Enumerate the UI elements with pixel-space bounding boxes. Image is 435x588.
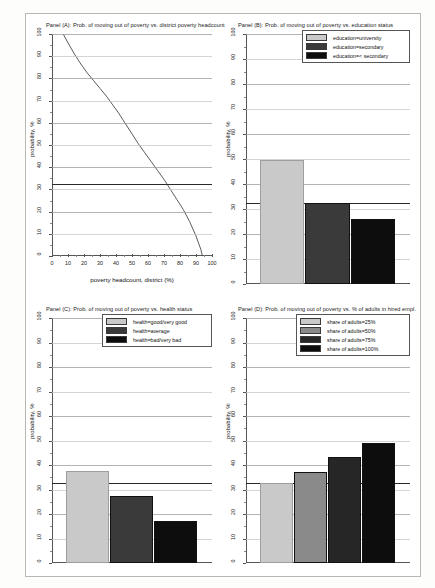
y-tick-minor xyxy=(244,247,246,248)
y-tick-label: 80 xyxy=(224,362,242,368)
bar-2 xyxy=(110,496,153,563)
panel-a-x-axis-title: poverty headcount, district (%) xyxy=(52,276,212,283)
x-tick-minor xyxy=(124,255,125,257)
y-tick-minor xyxy=(50,112,52,113)
y-tick-minor xyxy=(244,355,246,356)
y-tick-minor xyxy=(244,502,246,503)
x-tick-minor xyxy=(108,255,109,257)
x-tick xyxy=(164,254,165,257)
legend-swatch xyxy=(300,336,321,343)
gridline xyxy=(52,392,212,393)
y-tick-minor xyxy=(50,245,52,246)
legend-label: health=good/very good xyxy=(133,319,187,325)
y-tick-label: 60 xyxy=(30,411,48,417)
y-tick-label-text: 10 xyxy=(36,223,42,241)
y-tick-label-text: 0 xyxy=(36,245,42,263)
y-tick-minor xyxy=(50,453,52,454)
reference-line xyxy=(52,184,212,185)
panel-b-legend: education=universityeducation=secondarye… xyxy=(302,30,410,63)
y-tick xyxy=(243,134,246,135)
y-tick-label: 0 xyxy=(30,251,48,257)
gridline xyxy=(52,465,212,466)
y-tick xyxy=(243,318,246,319)
y-tick-label-text: 60 xyxy=(36,405,42,423)
gridline xyxy=(52,189,212,190)
legend-label: education=university xyxy=(333,35,381,41)
y-tick xyxy=(49,539,52,540)
y-tick-minor xyxy=(50,178,52,179)
legend-swatch xyxy=(306,52,327,59)
legend-item-2: share of adults=50% xyxy=(300,326,406,335)
gridline xyxy=(52,123,212,124)
y-tick-label-text: 40 xyxy=(36,156,42,174)
legend-label: share of adults=25% xyxy=(327,319,375,325)
y-tick-minor xyxy=(50,134,52,135)
y-tick xyxy=(49,123,52,124)
y-tick xyxy=(49,78,52,79)
y-tick-label: 100 xyxy=(30,29,48,35)
y-tick-label: 40 xyxy=(224,460,242,466)
y-tick-label: 50 xyxy=(30,140,48,146)
x-tick-minor xyxy=(188,255,189,257)
bar-4 xyxy=(362,443,395,563)
legend-swatch xyxy=(106,327,127,334)
panel-a: Panel (A): Prob. of moving out of povert… xyxy=(26,14,224,298)
y-tick-label: 0 xyxy=(30,558,48,564)
bar-3 xyxy=(154,521,197,563)
y-tick-minor xyxy=(50,379,52,380)
y-tick-label-text: 30 xyxy=(230,479,236,497)
legend-label: share of adults=100% xyxy=(327,346,378,352)
y-tick-minor xyxy=(50,428,52,429)
y-tick-label-text: 70 xyxy=(36,90,42,108)
y-tick-minor xyxy=(244,453,246,454)
y-tick-label-text: 100 xyxy=(230,23,236,41)
bar-3 xyxy=(351,219,395,284)
x-tick-minor xyxy=(204,255,205,257)
y-tick-label-text: 90 xyxy=(36,332,42,350)
y-tick-minor xyxy=(244,147,246,148)
gridline xyxy=(52,367,212,368)
y-tick-label-text: 40 xyxy=(230,454,236,472)
panel-c: Panel (C): Prob. of moving out of povert… xyxy=(26,298,224,578)
y-tick-label: 90 xyxy=(30,338,48,344)
y-tick-label-text: 50 xyxy=(230,430,236,448)
panel-d: Panel (D): Prob. of moving out of povert… xyxy=(224,298,422,578)
y-tick-label: 20 xyxy=(30,207,48,213)
y-tick-label: 10 xyxy=(224,254,242,260)
y-tick-minor xyxy=(244,222,246,223)
y-tick-minor xyxy=(50,526,52,527)
y-tick-minor xyxy=(244,197,246,198)
y-tick-label: 100 xyxy=(30,313,48,319)
y-tick-label-text: 20 xyxy=(230,223,236,241)
y-tick xyxy=(49,56,52,57)
x-tick-minor xyxy=(92,255,93,257)
x-tick xyxy=(180,254,181,257)
legend-item-4: share of adults=100% xyxy=(300,344,406,353)
y-tick-minor xyxy=(244,330,246,331)
y-tick-label-text: 90 xyxy=(230,48,236,66)
y-tick-label-text: 70 xyxy=(230,98,236,116)
y-tick-label: 40 xyxy=(224,179,242,185)
legend-label: education=< secondary xyxy=(333,53,388,59)
legend-swatch xyxy=(300,318,321,325)
y-tick-label-text: 30 xyxy=(36,178,42,196)
bar-2 xyxy=(294,472,327,563)
y-tick-minor xyxy=(50,477,52,478)
gridline xyxy=(52,212,212,213)
y-tick xyxy=(243,514,246,515)
y-tick-label: 30 xyxy=(30,184,48,190)
y-tick-label: 10 xyxy=(30,229,48,235)
legend-label: education=secondary xyxy=(333,44,384,50)
panel-c-plot-area: 0102030405060708090100 xyxy=(52,318,212,563)
panel-d-legend: share of adults=25%share of adults=50%sh… xyxy=(296,314,410,356)
x-tick xyxy=(116,254,117,257)
y-tick-label-text: 70 xyxy=(36,381,42,399)
x-tick-minor xyxy=(60,255,61,257)
panel-b: Panel (B): Prob. of moving out of povert… xyxy=(224,14,422,298)
y-tick-label: 10 xyxy=(224,534,242,540)
y-tick xyxy=(49,465,52,466)
y-tick-minor xyxy=(244,47,246,48)
x-tick-minor xyxy=(140,255,141,257)
y-tick-label-text: 30 xyxy=(36,479,42,497)
y-tick xyxy=(243,59,246,60)
